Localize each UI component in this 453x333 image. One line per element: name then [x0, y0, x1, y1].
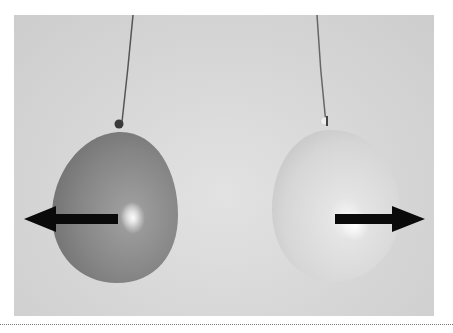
left-string — [122, 15, 133, 122]
dotted-divider — [0, 324, 453, 325]
left-balloon — [52, 120, 178, 284]
right-balloon — [272, 116, 400, 282]
balloons-photo — [14, 15, 434, 316]
right-string — [317, 15, 326, 124]
